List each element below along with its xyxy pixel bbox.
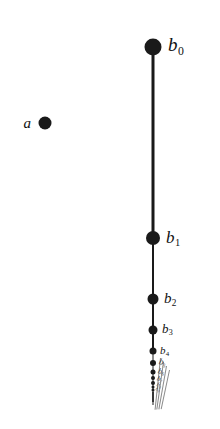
point-b9-label: b9 xyxy=(155,386,161,392)
point-b4-label: b4 xyxy=(160,345,169,356)
point-b6-marker xyxy=(151,370,156,375)
point-b0-label: b0 xyxy=(168,35,183,54)
point-a-label: a xyxy=(24,116,32,131)
point-a-marker xyxy=(39,117,52,130)
point-b0-marker xyxy=(145,39,162,56)
point-b3-label-letter: b xyxy=(162,321,169,336)
point-b1-label-subscript: 1 xyxy=(175,237,180,248)
point-b3-label-subscript: 3 xyxy=(169,329,173,338)
point-b1-marker xyxy=(146,231,160,245)
segment-b0-b1 xyxy=(152,47,155,238)
sequence-diagram-canvas: a b0 b1 b2 b3 b4 b5 b6 b7 b8 b9 xyxy=(0,0,220,429)
point-b15-marker xyxy=(152,400,154,402)
point-b2-label-letter: b xyxy=(164,290,172,306)
point-b4-marker xyxy=(150,348,157,355)
point-b2-marker xyxy=(148,294,159,305)
segment-b1-b2 xyxy=(152,238,154,299)
point-b1-label: b1 xyxy=(166,229,180,246)
point-b1-label-letter: b xyxy=(166,228,175,247)
point-b2-label-subscript: 2 xyxy=(172,297,177,307)
point-b0-label-letter: b xyxy=(168,34,178,55)
point-b5-marker xyxy=(150,360,156,366)
point-b4-label-subscript: 4 xyxy=(166,350,169,357)
point-b4-label-letter: b xyxy=(160,344,166,356)
point-b0-label-subscript: 0 xyxy=(178,44,184,57)
point-b3-marker xyxy=(149,326,158,335)
point-b2-label: b2 xyxy=(164,291,176,306)
point-b7-marker xyxy=(151,376,155,380)
point-b3-label: b3 xyxy=(162,322,173,335)
